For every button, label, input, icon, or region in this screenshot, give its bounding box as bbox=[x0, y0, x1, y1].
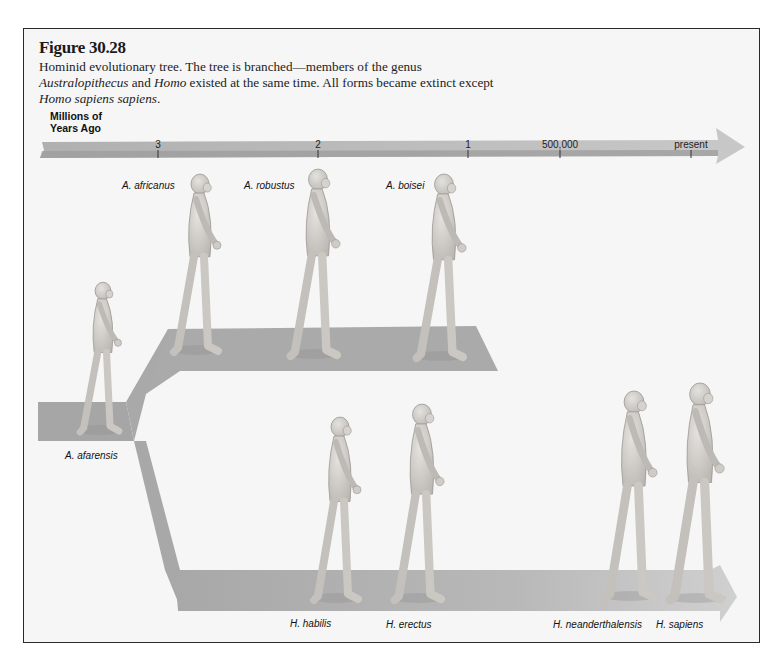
label-h-habilis: H. habilis bbox=[290, 618, 331, 629]
figure-h-neanderthalensis bbox=[601, 391, 658, 601]
label-a-africanus: A. africanus bbox=[122, 180, 175, 191]
label-h-sapiens: H. sapiens bbox=[656, 619, 703, 630]
label-h-erectus: H. erectus bbox=[386, 619, 432, 630]
lower-connector bbox=[134, 441, 180, 602]
label-h-neanderthalensis: H. neanderthalensis bbox=[553, 619, 642, 630]
label-a-robustus: A. robustus bbox=[244, 180, 295, 191]
label-a-boisei: A. boisei bbox=[386, 180, 424, 191]
tick-label: 3 bbox=[155, 139, 161, 150]
timeline-arrow bbox=[40, 128, 745, 164]
figure-a-africanus bbox=[170, 174, 222, 355]
tick-label: present bbox=[674, 139, 708, 150]
evolution-tree-diagram: 321500,000present bbox=[0, 0, 783, 672]
tick-label: 2 bbox=[315, 139, 321, 150]
tick-label: 500,000 bbox=[542, 139, 579, 150]
label-a-afarensis: A. afarensis bbox=[65, 450, 118, 461]
tick-label: 1 bbox=[465, 139, 471, 150]
